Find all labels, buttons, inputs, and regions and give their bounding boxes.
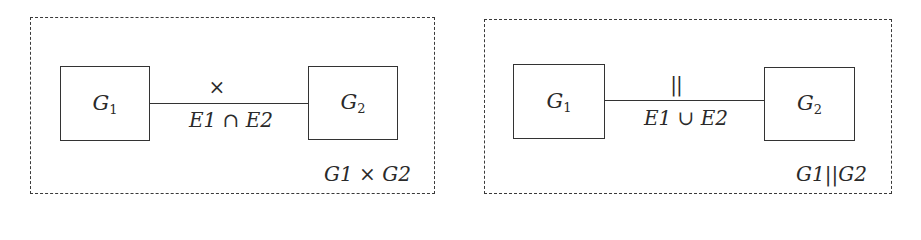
node-g2-product: G2 [308,66,398,140]
node-label: G2 [797,91,822,117]
edge-parallel [604,100,765,101]
node-label: G1 [546,89,571,115]
edge-product [149,103,309,104]
caption-product: G1 × G2 [324,162,411,186]
node-g1-parallel: G1 [513,64,605,139]
node-label: G1 [92,91,117,117]
node-g2-parallel: G2 [764,67,855,141]
operator-times: × [197,75,237,99]
operator-parallel: || [656,72,696,96]
edge-label-union: E1 ∪ E2 [616,106,756,130]
node-g1-product: G1 [60,66,150,141]
edge-label-intersection: E1 ∩ E2 [161,108,301,132]
caption-parallel: G1||G2 [796,162,867,186]
node-label: G2 [340,90,365,116]
